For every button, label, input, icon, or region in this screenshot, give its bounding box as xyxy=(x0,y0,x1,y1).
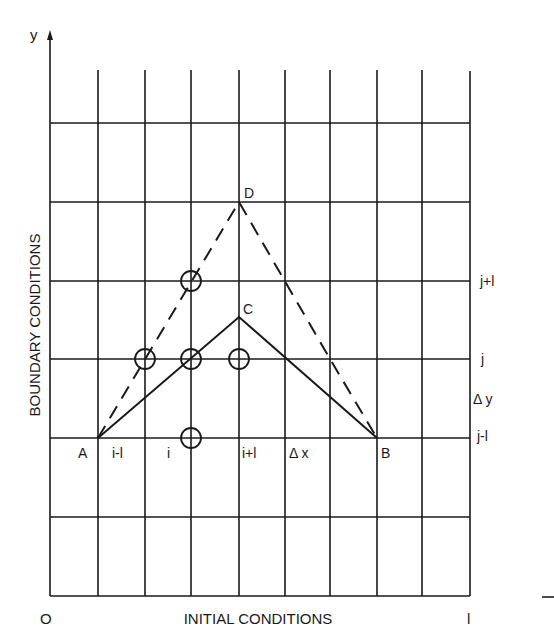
col-label-i: i xyxy=(167,445,170,461)
point-a-label: A xyxy=(78,445,88,461)
point-c-label: C xyxy=(243,301,253,317)
y-axis-arrow-icon xyxy=(47,30,53,40)
x-axis-title: INITIAL CONDITIONS xyxy=(184,610,333,627)
grid-lines xyxy=(50,38,554,597)
col-label-delta-x: Δ x xyxy=(289,445,308,461)
point-d-label: D xyxy=(244,185,254,201)
characteristic-acb xyxy=(98,317,377,438)
row-label-j-plus-1: j+l xyxy=(479,273,494,289)
col-label-i-plus-1: i+l xyxy=(242,445,256,461)
row-label-j-minus-1: j-l xyxy=(476,428,488,444)
y-axis-label: y xyxy=(30,26,38,43)
col-label-i-minus-1: i-l xyxy=(112,445,123,461)
origin-label: O xyxy=(40,610,52,627)
y-axis-title: BOUNDARY CONDITIONS xyxy=(26,234,43,417)
row-label-delta-y: Δ y xyxy=(473,391,492,407)
x-end-label: l xyxy=(467,610,470,627)
point-b-label: B xyxy=(381,445,390,461)
row-label-j: j xyxy=(480,351,484,367)
characteristics-grid-diagram: y O l INITIAL CONDITIONS BOUNDARY CONDIT… xyxy=(0,0,554,640)
